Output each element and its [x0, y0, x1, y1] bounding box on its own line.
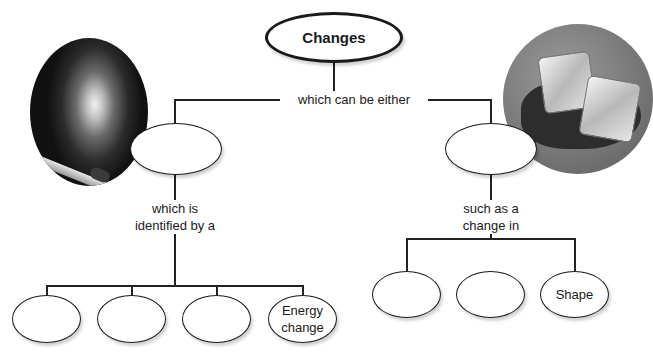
left-link-label: which is identified by a: [128, 200, 222, 234]
root-link-label: which can be either: [280, 91, 428, 108]
left-drop: [174, 99, 176, 124]
left-child-node-3: [182, 295, 251, 343]
root-bar-right: [428, 99, 491, 101]
right-child-node-2: [456, 271, 525, 318]
burning-match-photo: [30, 38, 148, 186]
right-link-label: such as a change in: [458, 200, 524, 234]
right-branch-node: [445, 123, 537, 175]
root-bar-left: [174, 99, 280, 101]
right-child-node-shape: Shape: [540, 271, 609, 318]
left-child-node-2: [97, 295, 166, 343]
right-drop: [490, 99, 492, 124]
left-child-node-energy-change: Energy change: [268, 295, 337, 343]
ice-cube-2: [578, 75, 642, 143]
right-child-node-1: [372, 271, 441, 318]
left-child-node-1: [12, 295, 81, 343]
right-child-drop-3: [574, 238, 576, 272]
energy-change-line-1: Energy: [282, 302, 323, 319]
left-link-line-2: identified by a: [128, 217, 222, 234]
right-link-line-2: change in: [458, 217, 524, 234]
root-node-changes: Changes: [265, 12, 403, 63]
right-child-drop-1: [406, 238, 408, 272]
left-branch-node: [130, 123, 222, 175]
energy-change-line-2: change: [281, 319, 324, 336]
right-children-bar: [406, 238, 575, 240]
left-link-line-1: which is: [128, 200, 222, 217]
right-link-line-1: such as a: [458, 200, 524, 217]
left-children-bar: [46, 285, 303, 287]
